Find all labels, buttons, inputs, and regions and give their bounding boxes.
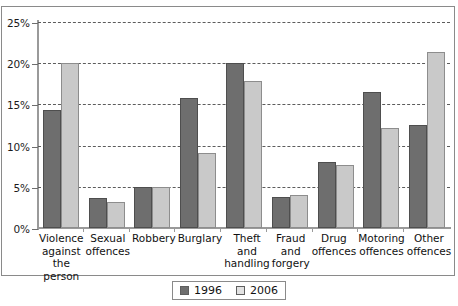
bar-1996 (409, 125, 427, 228)
bar-1996 (318, 162, 336, 228)
bar-2006 (198, 153, 216, 228)
x-axis-label: Violenceagainst theperson (38, 232, 85, 282)
bar-group (313, 22, 359, 228)
y-tick-label: 20% (7, 58, 30, 70)
x-axis-label: Drugoffences (311, 232, 357, 282)
legend-label-2006: 2006 (250, 284, 278, 297)
bar-2006 (244, 81, 262, 228)
bar-group (221, 22, 267, 228)
legend-item-2006: 2006 (236, 284, 278, 297)
y-tick-label: 5% (14, 182, 30, 194)
x-axis-labels: Violenceagainst thepersonSexualoffencesR… (38, 232, 450, 282)
bar-1996 (89, 198, 107, 228)
bar-group (130, 22, 176, 228)
bar-group (404, 22, 450, 228)
bar-1996 (363, 92, 381, 228)
y-tick-label: 10% (7, 141, 30, 153)
bar-1996 (226, 63, 244, 228)
gridline-0%: 0% (38, 228, 450, 229)
bar-2006 (61, 63, 79, 228)
bar-2006 (107, 202, 125, 228)
bar-1996 (43, 110, 61, 228)
bar-groups (38, 22, 450, 228)
x-axis-label: Otheroffences (406, 232, 452, 282)
legend-item-1996: 1996 (180, 284, 222, 297)
bar-group (84, 22, 130, 228)
bar-2006 (290, 195, 308, 228)
plot-area: 0%5%10%15%20%25% (38, 22, 450, 228)
bar-group (358, 22, 404, 228)
bar-chart: 0%5%10%15%20%25% Violenceagainst thepers… (0, 0, 458, 306)
x-axis-label: Fraud andforgery (271, 232, 311, 282)
legend-swatch-1996 (180, 286, 189, 295)
bar-group (175, 22, 221, 228)
bar-2006 (381, 128, 399, 228)
bar-2006 (427, 52, 445, 228)
bar-2006 (336, 165, 354, 228)
bar-group (267, 22, 313, 228)
bar-group (38, 22, 84, 228)
y-tick-label: 0% (14, 223, 30, 235)
x-axis-label: Sexualoffences (85, 232, 131, 282)
bar-2006 (152, 187, 170, 228)
legend-label-1996: 1996 (194, 284, 222, 297)
y-tick-label: 15% (7, 99, 30, 111)
legend-swatch-2006 (236, 286, 245, 295)
bar-1996 (180, 98, 198, 228)
chart-legend: 1996 2006 (172, 281, 286, 300)
bar-1996 (272, 197, 290, 228)
bar-1996 (134, 187, 152, 228)
x-axis-label: Robbery (131, 232, 177, 282)
y-tick-label: 25% (7, 17, 30, 29)
x-axis-label: Burglary (177, 232, 224, 282)
x-axis-label: Motoringoffences (357, 232, 406, 282)
y-tick-mark (32, 229, 38, 230)
x-axis-label: Theft andhandling (223, 232, 271, 282)
